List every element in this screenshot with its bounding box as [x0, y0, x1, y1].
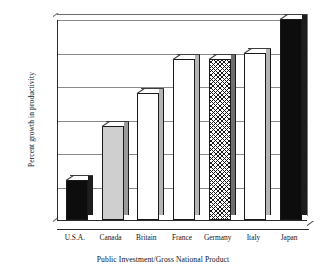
plot-backwall-top-edge: [57, 14, 308, 15]
bar-side-face: [88, 175, 93, 215]
bar-side-face: [302, 14, 307, 215]
bar-face: [209, 59, 231, 220]
bar-top-face: [209, 54, 236, 59]
bar-side-face: [231, 54, 236, 215]
bar-top-face: [173, 54, 200, 59]
bar-top-edge: [248, 48, 271, 49]
floor-front-edge: [57, 229, 309, 230]
floor-right-edge: [307, 221, 317, 230]
y-axis-title: Percent growth in productivity: [27, 40, 36, 200]
bar-japan: [280, 19, 302, 220]
bar-top-edge: [141, 88, 164, 89]
bar-side-face: [159, 88, 164, 215]
bar-top-edge: [213, 54, 236, 55]
bar-face: [137, 93, 159, 220]
bar-usa: [66, 180, 88, 220]
bar-side-face: [266, 48, 271, 216]
bar-canada: [102, 126, 124, 220]
bar-italy: [244, 53, 266, 221]
x-axis-tick-labels: U.S.A.CanadaBritainFranceGermanyItalyJap…: [57, 233, 309, 247]
gridline: [58, 20, 308, 21]
bar-top-edge: [106, 121, 129, 122]
plot-area: [57, 20, 307, 221]
bar-face: [102, 126, 124, 220]
bar-germany: [209, 59, 231, 220]
bar-side-face: [195, 54, 200, 215]
bar-side-face: [124, 121, 129, 215]
bar-top-face: [280, 14, 307, 19]
plot-floor: [57, 221, 315, 230]
bar-top-face: [244, 48, 271, 53]
bar-top-edge: [284, 14, 307, 15]
bar-chart: Percent growth in productivity 00.511.52…: [0, 0, 326, 273]
bar-face: [66, 180, 88, 220]
bar-top-face: [102, 121, 129, 126]
x-axis-tick-label: Japan: [265, 233, 313, 242]
bar-top-face: [66, 175, 93, 180]
bar-face: [280, 19, 302, 220]
bar-top-edge: [70, 175, 93, 176]
x-axis-title: Public Investment/Gross National Product: [0, 255, 326, 264]
plot-backwall-right-edge: [307, 14, 308, 216]
bar-britain: [137, 93, 159, 220]
bar-top-face: [137, 88, 164, 93]
bar-face: [173, 59, 195, 220]
bar-face: [244, 53, 266, 221]
bar-top-edge: [177, 54, 200, 55]
bar-france: [173, 59, 195, 220]
